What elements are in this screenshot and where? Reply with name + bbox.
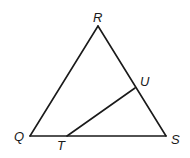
- label-R: R: [93, 10, 102, 25]
- label-S: S: [171, 132, 180, 147]
- segment-RS: [98, 26, 166, 136]
- label-T: T: [57, 138, 66, 153]
- segment-TU: [67, 88, 135, 136]
- label-U: U: [140, 74, 150, 89]
- segment-QR: [30, 26, 98, 136]
- triangle-diagram: R Q S T U: [0, 0, 190, 158]
- label-Q: Q: [14, 129, 24, 144]
